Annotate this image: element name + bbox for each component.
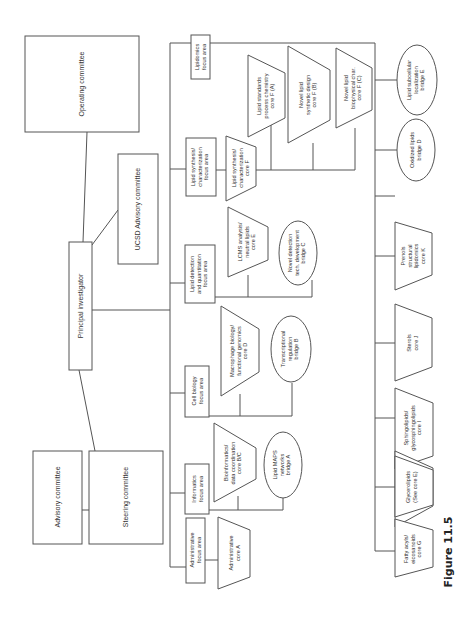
figure-caption: Figure 11.5 (442, 517, 455, 588)
svg-text:Glycerolipids(See core E): Glycerolipids(See core E) (405, 471, 418, 503)
focus-area-cell-biology: Cell biologyfocus area (185, 366, 209, 417)
advisory-committee-label: Advisory committee (54, 466, 62, 527)
svg-text:Administrativefocus area: Administrativefocus area (189, 532, 202, 567)
core-lipid-standards-fa: Lipid standardsprocess chemistrycore F (… (248, 55, 285, 137)
ucsd-advisory-committee-box: UCSD Advisory committee (118, 154, 158, 264)
svg-text:Cell biologyfocus area: Cell biologyfocus area (191, 376, 204, 405)
core-novel-synthetic-fb: Novel lipidsynthetic designcore F (B) (288, 46, 330, 143)
ucsd-advisory-committee-label: UCSD Advisory committee (134, 168, 142, 251)
core-macrophage-d: Macrophage biology/functional genomicsco… (221, 306, 259, 396)
core-novel-biophysical-fc: Novel lipidbiophysical char.core F (C) (336, 48, 372, 128)
bridge-oxidized-lipids-d: Oxidized lipidsbridge D (397, 119, 435, 181)
core-lcms-e: LCMS analysis/neutral lipidscore E (228, 207, 268, 277)
principal-investigator-box: Principal investigator (69, 242, 92, 370)
focus-area-lipid-detection: Lipid detectionand quantitationfocus are… (185, 245, 215, 303)
steering-committee-label: Steering committee (122, 467, 130, 527)
svg-text:Informaticsfocus area: Informaticsfocus area (191, 475, 204, 503)
advisory-committee-box: Advisory committee (33, 451, 82, 544)
core-fatty-acyls-g: Fatty acyls/eicosanoidscore G (395, 519, 433, 577)
focus-area-administrative: Administrativefocus area (186, 518, 205, 583)
svg-text:Sterolscore J: Sterolscore J (406, 334, 419, 352)
operating-committee-box: Operating committee (25, 36, 139, 132)
focus-area-lipid-synthesis: Lipid synthesis/characterizationfocus ar… (186, 138, 216, 196)
svg-text:Lipidomicsfocus area: Lipidomicsfocus area (194, 43, 207, 70)
bridge-transcriptional-b: Transcriptionalregulationbridge B (271, 316, 311, 382)
operating-committee-label: Operating committee (78, 51, 86, 116)
focus-area-informatics: Informaticsfocus area (185, 464, 209, 514)
core-sterols-j: Sterolscore J (395, 304, 432, 381)
bridge-lipid-subcellular-e: Lipid subcellularlocalizationbridge E (397, 45, 437, 115)
focus-area-lipidomics: Lipidomicsfocus area (191, 35, 210, 79)
bridge-lipid-maps-a: Lipid MAPSnetworksbridge A (264, 432, 302, 498)
steering-committee-box: Steering committee (89, 451, 163, 544)
bridge-novel-detection-c: Novel detectiontech. developmentbridge C (279, 221, 317, 285)
core-administrative-a: Administrativecore A (218, 517, 250, 589)
core-prenols-k: Prenolsstructurallipidomicscore K (395, 222, 432, 290)
principal-investigator-label: Principal investigator (77, 273, 85, 338)
org-chart-diagram: Operating committee Principal investigat… (0, 0, 462, 617)
core-bioinformatics-bc: Bioinformatics/data coordinationcore B/C (214, 423, 256, 502)
core-lipid-synthesis-f: Lipid synthesis/characterizationcore F (226, 136, 256, 201)
